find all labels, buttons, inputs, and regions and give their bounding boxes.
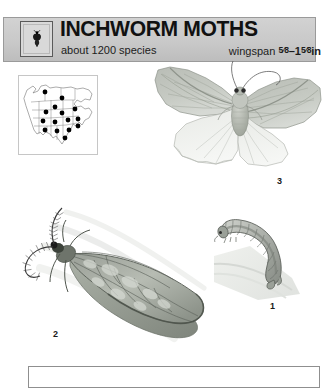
moth-silhouette-icon bbox=[30, 29, 44, 49]
wingspan-value: 5⁄8–15⁄8in bbox=[278, 45, 321, 57]
figure-number-2: 2 bbox=[53, 329, 58, 339]
figure-adult-moth-wings-spread bbox=[148, 58, 328, 193]
figure-number-1: 1 bbox=[270, 301, 275, 311]
wingspan-label: wingspan 5⁄8–15⁄8in bbox=[229, 44, 321, 57]
figure-adult-moth-at-rest bbox=[14, 196, 214, 351]
bottom-rule-box bbox=[28, 366, 320, 388]
figure-number-3: 3 bbox=[277, 176, 282, 186]
moth-icon-box bbox=[20, 21, 53, 57]
range-map bbox=[18, 75, 98, 155]
species-count-label: about 1200 species bbox=[61, 44, 156, 56]
wingspan-word: wingspan bbox=[229, 45, 275, 57]
page-title: INCHWORM MOTHS bbox=[60, 18, 258, 40]
figure-inchworm-caterpillar bbox=[214, 212, 314, 307]
page-top-margin bbox=[0, 0, 329, 14]
